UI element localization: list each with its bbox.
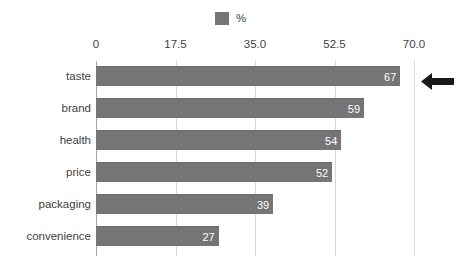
x-tick-label-3: 52.5 [323, 38, 345, 50]
bar-value-label: 52 [316, 167, 328, 178]
bar-convenience[interactable]: 27 [96, 226, 219, 246]
bar-packaging[interactable]: 39 [96, 194, 273, 214]
bar-brand[interactable]: 59 [96, 98, 364, 118]
category-label-convenience: convenience [26, 226, 91, 246]
y-axis-category-labels: tastebrandhealthpricepackagingconvenienc… [0, 61, 96, 256]
x-tick-label-2: 35.0 [244, 38, 266, 50]
bar-row[interactable]: 67 [96, 66, 400, 86]
gridline-2 [255, 61, 256, 256]
bar-price[interactable]: 52 [96, 162, 332, 182]
legend-swatch-percent [215, 12, 229, 25]
category-label-health: health [60, 130, 91, 150]
bar-row[interactable]: 52 [96, 162, 332, 182]
gridline-3 [335, 61, 336, 256]
legend-label-percent: % [236, 12, 246, 25]
category-label-packaging: packaging [39, 194, 91, 214]
x-tick-label-0: 0 [93, 38, 99, 50]
arrow-left-icon [421, 72, 454, 91]
x-tick-label-1: 17.5 [164, 38, 186, 50]
bar-value-label: 39 [257, 199, 269, 210]
bar-chart: % 017.535.052.570.0 tastebrandhealthpric… [0, 0, 461, 270]
plot-area: 675954523927 [96, 61, 414, 256]
category-label-price: price [66, 162, 91, 182]
bar-row[interactable]: 59 [96, 98, 364, 118]
bar-row[interactable]: 54 [96, 130, 341, 150]
bar-value-label: 59 [348, 103, 360, 114]
x-tick-label-4: 70.0 [403, 38, 425, 50]
bar-health[interactable]: 54 [96, 130, 341, 150]
bar-taste[interactable]: 67 [96, 66, 400, 86]
bar-row[interactable]: 39 [96, 194, 273, 214]
bar-value-label: 54 [325, 135, 337, 146]
gridline-4 [414, 61, 415, 256]
chart-legend: % [0, 12, 461, 25]
bar-value-label: 27 [202, 231, 214, 242]
bar-row[interactable]: 27 [96, 226, 219, 246]
category-label-brand: brand [62, 98, 91, 118]
bar-value-label: 67 [384, 71, 396, 82]
category-label-taste: taste [66, 66, 91, 86]
